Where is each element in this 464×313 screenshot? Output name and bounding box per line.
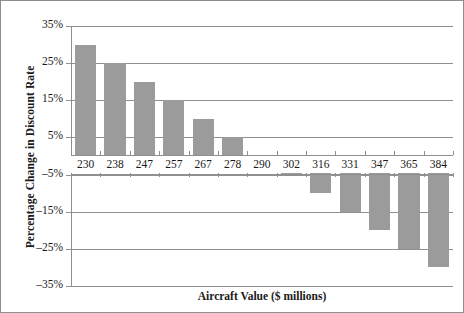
bar — [222, 137, 243, 156]
gridline — [71, 249, 453, 250]
x-tick-mark — [277, 173, 278, 177]
x-tick-mark — [130, 151, 131, 155]
x-tick-mark — [365, 151, 366, 155]
y-axis-title: Percentage Change in Discount Rate — [24, 42, 36, 272]
y-tick-label: 25% — [11, 55, 63, 67]
x-tick-label: 302 — [277, 156, 306, 173]
x-axis-title: Aircraft Value ($ millions) — [71, 290, 453, 302]
x-tick-label: 267 — [189, 156, 218, 173]
bar — [163, 100, 184, 156]
x-tick-mark — [394, 173, 395, 177]
x-tick-mark — [247, 151, 248, 155]
x-tick-label: 331 — [335, 156, 364, 173]
plot-area: 35%25%15%5%–5%–15%–25%–35% 2302382472572… — [71, 26, 453, 286]
x-tick-label: 290 — [247, 156, 276, 173]
bar — [193, 119, 214, 156]
gridline — [71, 212, 453, 213]
y-tick-mark — [66, 137, 71, 138]
x-tick-label: 316 — [306, 156, 335, 173]
y-tick-label: –35% — [11, 278, 63, 290]
x-tick-mark — [218, 173, 219, 177]
x-tick-mark — [100, 151, 101, 155]
x-tick-label: 384 — [424, 156, 453, 173]
y-tick-label: –15% — [11, 204, 63, 216]
x-tick-mark — [453, 151, 454, 155]
x-tick-mark — [424, 151, 425, 155]
x-tick-mark — [130, 173, 131, 177]
y-tick-mark — [66, 26, 71, 27]
x-tick-mark — [189, 173, 190, 177]
x-tick-mark — [189, 151, 190, 155]
x-tick-mark — [306, 151, 307, 155]
gridline — [71, 26, 453, 27]
x-tick-label: 230 — [71, 156, 100, 173]
x-tick-mark — [335, 151, 336, 155]
x-tick-mark — [335, 173, 336, 177]
gridline — [71, 63, 453, 64]
x-tick-mark — [424, 173, 425, 177]
y-tick-mark — [66, 249, 71, 250]
y-tick-label: 15% — [11, 92, 63, 104]
x-tick-mark — [277, 151, 278, 155]
x-tick-mark — [218, 151, 219, 155]
x-tick-label: 278 — [218, 156, 247, 173]
x-tick-mark — [365, 173, 366, 177]
x-tick-mark — [394, 151, 395, 155]
x-tick-mark — [159, 173, 160, 177]
y-tick-mark — [66, 100, 71, 101]
x-tick-mark — [159, 151, 160, 155]
y-tick-mark — [66, 63, 71, 64]
x-tick-label: 347 — [365, 156, 394, 173]
gridline — [71, 100, 453, 101]
bar — [134, 82, 155, 156]
chart-frame: Percentage Change in Discount Rate Aircr… — [0, 0, 464, 313]
y-tick-label: 5% — [11, 129, 63, 141]
x-tick-mark — [247, 173, 248, 177]
x-tick-label: 257 — [159, 156, 188, 173]
y-tick-label: 35% — [11, 18, 63, 30]
y-tick-label: –5% — [11, 167, 63, 179]
x-tick-label: 247 — [130, 156, 159, 173]
x-tick-mark — [306, 173, 307, 177]
gridline — [71, 286, 453, 287]
x-tick-mark — [453, 173, 454, 177]
x-tick-label: 365 — [394, 156, 423, 173]
bar — [75, 45, 96, 156]
x-tick-mark — [100, 173, 101, 177]
y-tick-mark — [66, 286, 71, 287]
bar — [104, 63, 125, 156]
x-tick-label: 238 — [100, 156, 129, 173]
y-tick-mark — [66, 212, 71, 213]
y-tick-label: –25% — [11, 241, 63, 253]
gridline — [71, 137, 453, 138]
